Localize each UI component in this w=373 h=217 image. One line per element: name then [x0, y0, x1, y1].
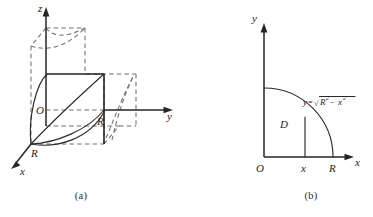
tick-label-R-y: R	[96, 115, 104, 127]
equation-equals: =	[308, 98, 313, 107]
figure-container: z y x O R R D y x O x R y = √ R	[0, 0, 373, 217]
axis-z-arrowhead	[43, 7, 50, 17]
origin-label-b: O	[256, 162, 264, 174]
radicand-first: R	[319, 97, 326, 107]
axis-x-label-b: x	[354, 156, 360, 168]
axis-x-arrowhead	[11, 161, 20, 169]
dashed-base-right-edge	[104, 126, 119, 144]
solid-curve-base-outer	[31, 112, 104, 145]
axis-y-label: y	[166, 110, 172, 122]
caption-panel-a: (a)	[66, 190, 96, 201]
equation-minus: −	[330, 98, 335, 107]
tick-label-R-b: R	[328, 162, 336, 174]
axis-x-label: x	[19, 165, 25, 177]
axis-x-arrowhead-b	[345, 154, 355, 160]
equation-lhs: y	[302, 97, 307, 107]
tick-label-R-x: R	[30, 147, 38, 159]
tick-label-x: x	[300, 162, 306, 174]
origin-label-a: O	[36, 104, 44, 116]
figure-panel-a: z y x O R R	[0, 0, 190, 185]
axis-y-label-b: y	[251, 12, 257, 24]
radicand-first-exponent: 2	[326, 95, 329, 101]
axis-y-arrowhead-b	[261, 23, 268, 33]
radical-sign: √	[314, 99, 319, 108]
curve-equation-label: y = √ R 2 − x 2	[302, 95, 355, 108]
dashed-top-arc-rear	[46, 28, 85, 35]
caption-panel-b: (b)	[296, 190, 326, 201]
radicand-second-exponent: 2	[343, 95, 346, 101]
figure-panel-b: D y x O x R y = √ R 2 − x 2	[190, 0, 373, 185]
axis-x-line	[16, 144, 31, 163]
dashed-top-arc	[31, 28, 85, 48]
radicand-second: x	[337, 97, 342, 107]
region-label-D: D	[279, 118, 288, 130]
dashed-upper-receding-edge	[31, 28, 46, 46]
axis-z-label: z	[37, 2, 43, 14]
